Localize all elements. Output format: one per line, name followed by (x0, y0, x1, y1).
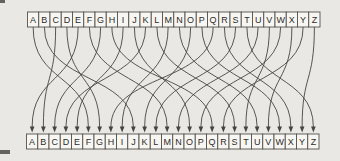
bottom-left-crop-artifact (0, 150, 10, 154)
bottom-letter-U: U (254, 137, 261, 147)
top-letter-M: M (164, 15, 172, 25)
bottom-letter-N: N (175, 137, 182, 147)
bottom-letter-V: V (265, 137, 271, 147)
top-letter-A: A (30, 15, 36, 25)
top-letter-O: O (187, 15, 194, 25)
top-letter-L: L (154, 15, 159, 25)
top-letter-B: B (41, 15, 47, 25)
bottom-letter-M: M (163, 137, 171, 147)
top-letter-U: U (255, 15, 262, 25)
arrowhead-icon-E-to-A (30, 127, 35, 133)
bottom-letter-F: F (86, 137, 92, 147)
arrowhead-icon-G-to-C (52, 127, 57, 133)
top-letter-V: V (266, 15, 272, 25)
arrowhead-icon-J-to-O (187, 127, 192, 133)
arrowhead-icon-F-to-M (165, 127, 170, 133)
arrowhead-icon-T-to-Z (311, 127, 316, 133)
top-letter-X: X (289, 15, 295, 25)
bottom-letter-G: G (96, 137, 103, 147)
top-letter-J: J (132, 15, 137, 25)
arrowhead-icon-K-to-D (64, 127, 69, 133)
arrowhead-icon-W-to-P (199, 127, 204, 133)
bottom-letter-I: I (121, 137, 124, 147)
mapping-curve-O-to-K (145, 27, 191, 127)
arrowhead-icon-I-to-E (75, 127, 80, 133)
bottom-letter-O: O (186, 137, 193, 147)
bottom-letter-E: E (74, 137, 80, 147)
mapping-curve-B-to-J (44, 27, 133, 127)
top-letter-G: G (97, 15, 104, 25)
arrowhead-icon-N-to-U (255, 127, 260, 133)
mapping-curve-C-to-B (43, 27, 55, 127)
arrowhead-icon-U-to-N (176, 127, 181, 133)
mapping-curve-S-to-L (156, 27, 236, 127)
bottom-letter-T: T (243, 137, 249, 147)
top-letter-I: I (122, 15, 125, 25)
arrowhead-icon-Y-to-R (221, 127, 226, 133)
arrowhead-icon-L-to-S (232, 127, 237, 133)
mapping-curve-U-to-N (178, 27, 258, 127)
bottom-letter-L: L (153, 137, 158, 147)
bottom-letter-B: B (40, 137, 46, 147)
top-left-crop-artifact (0, 0, 5, 3)
bottom-letter-Y: Y (299, 137, 305, 147)
arrowhead-icon-H-to-Q (210, 127, 215, 133)
arrowhead-icon-Q-to-H (109, 127, 114, 133)
mapping-curve-T-to-Z (247, 27, 314, 127)
arrowhead-icon-R-to-X (289, 127, 294, 133)
substitution-cipher-diagram: ABCDEFGHIJKLMNOPQRSTUVWXYZABCDEFGHIJKLMN… (0, 0, 340, 161)
bottom-letter-A: A (29, 137, 35, 147)
arrowhead-icon-A-to-F (86, 127, 91, 133)
top-letter-Z: Z (312, 15, 318, 25)
top-letter-E: E (75, 15, 81, 25)
top-letter-Q: Q (210, 15, 217, 25)
top-letter-W: W (276, 15, 285, 25)
top-letter-Y: Y (300, 15, 306, 25)
mapping-curve-G-to-C (55, 27, 101, 127)
top-letter-P: P (199, 15, 205, 25)
cipher-mapping-canvas: ABCDEFGHIJKLMNOPQRSTUVWXYZABCDEFGHIJKLMN… (0, 0, 340, 161)
bottom-letter-Q: Q (209, 137, 216, 147)
bottom-letter-K: K (142, 137, 148, 147)
bottom-letter-Z: Z (311, 137, 317, 147)
top-letter-D: D (64, 15, 71, 25)
bottom-letter-J: J (131, 137, 136, 147)
top-letter-K: K (143, 15, 149, 25)
bottom-letter-H: H (108, 137, 115, 147)
bottom-letter-W: W (275, 137, 284, 147)
arrowhead-icon-S-to-L (154, 127, 159, 133)
top-letter-S: S (233, 15, 239, 25)
top-letter-H: H (109, 15, 116, 25)
arrowhead-icon-Z-to-Y (300, 127, 305, 133)
arrowhead-icon-C-to-B (41, 127, 46, 133)
arrowhead-icon-M-to-I (120, 127, 125, 133)
arrowhead-icon-O-to-K (142, 127, 147, 133)
arrowhead-icon-D-to-G (97, 127, 102, 133)
bottom-letter-C: C (51, 137, 58, 147)
top-letter-N: N (176, 15, 183, 25)
mapping-curve-A-to-F (33, 27, 88, 127)
arrowhead-icon-X-to-V (266, 127, 271, 133)
bottom-letter-S: S (232, 137, 238, 147)
arrowhead-icon-P-to-W (277, 127, 282, 133)
arrowhead-icon-V-to-T (244, 127, 249, 133)
arrowhead-icon-B-to-J (131, 127, 136, 133)
bottom-letter-D: D (63, 137, 70, 147)
bottom-letter-R: R (220, 137, 227, 147)
bottom-letter-X: X (288, 137, 294, 147)
top-letter-T: T (244, 15, 250, 25)
mapping-curve-D-to-G (67, 27, 100, 127)
top-letter-R: R (221, 15, 228, 25)
bottom-letter-P: P (198, 137, 204, 147)
mapping-curve-P-to-W (202, 27, 280, 127)
mapping-curve-Z-to-Y (302, 27, 314, 127)
mapping-curve-K-to-D (66, 27, 146, 127)
top-letter-C: C (52, 15, 59, 25)
mapping-curve-I-to-E (77, 27, 123, 127)
top-letter-F: F (87, 15, 93, 25)
mapping-curve-N-to-U (179, 27, 257, 127)
